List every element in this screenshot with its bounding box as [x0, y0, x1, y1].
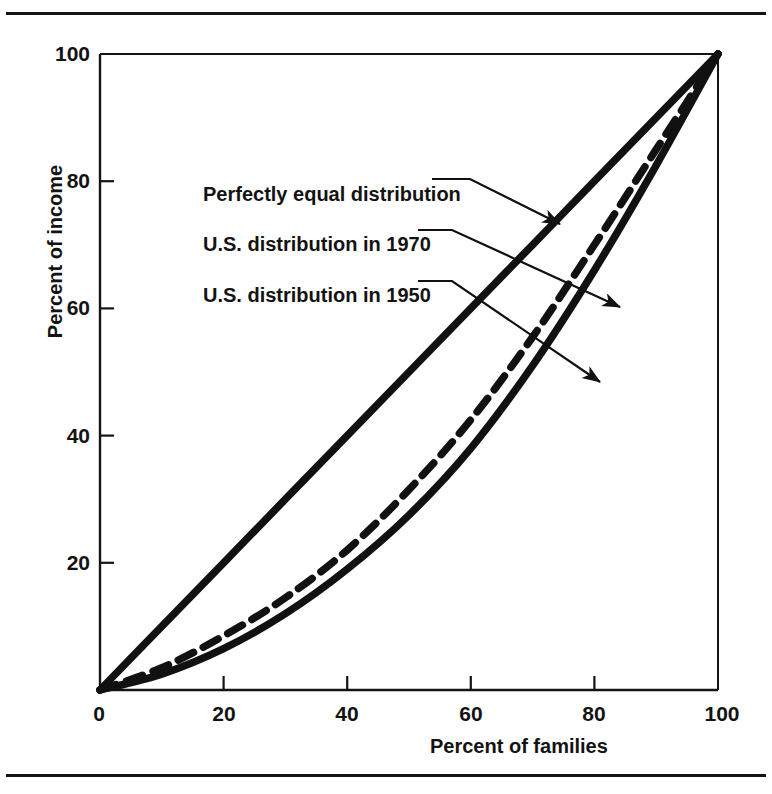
x-axis-ticks [224, 676, 595, 690]
y-tick-label-100: 100 [38, 42, 90, 66]
x-tick-label-0: 0 [93, 702, 105, 726]
x-tick-label-60: 60 [459, 702, 482, 726]
leader-line-us-1970 [418, 230, 620, 307]
y-axis-title: Percent of income [44, 142, 67, 362]
lorenz-curve-chart [0, 0, 772, 794]
annotation-label-us-1970: U.S. distribution in 1970 [203, 233, 431, 256]
x-tick-label-20: 20 [212, 702, 235, 726]
x-axis-title: Percent of families [430, 735, 608, 758]
y-tick-label-20: 20 [38, 551, 90, 575]
y-axis-ticks [100, 181, 114, 563]
series-perfect-equality-line [100, 54, 718, 690]
x-tick-label-100: 100 [704, 702, 739, 726]
x-tick-label-40: 40 [335, 702, 358, 726]
x-tick-label-80: 80 [582, 702, 605, 726]
annotation-label-us-1950: U.S. distribution in 1950 [203, 284, 431, 307]
y-tick-label-40: 40 [38, 424, 90, 448]
figure-container: 100 80 60 40 20 0 20 40 60 80 100 Percen… [0, 0, 772, 794]
data-series-group [100, 54, 718, 690]
annotation-label-perfect-equality: Perfectly equal distribution [203, 183, 461, 206]
